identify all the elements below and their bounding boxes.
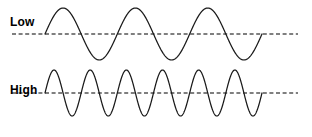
frequency-comparison-figure: Low High <box>0 0 312 137</box>
high-frequency-row: High <box>0 68 312 137</box>
low-frequency-plot <box>0 0 312 68</box>
high-frequency-waveform <box>45 70 262 116</box>
high-frequency-plot <box>0 68 312 137</box>
low-frequency-row: Low <box>0 0 312 68</box>
high-frequency-label: High <box>10 84 37 96</box>
low-frequency-waveform <box>45 8 262 60</box>
low-frequency-label: Low <box>10 16 35 28</box>
